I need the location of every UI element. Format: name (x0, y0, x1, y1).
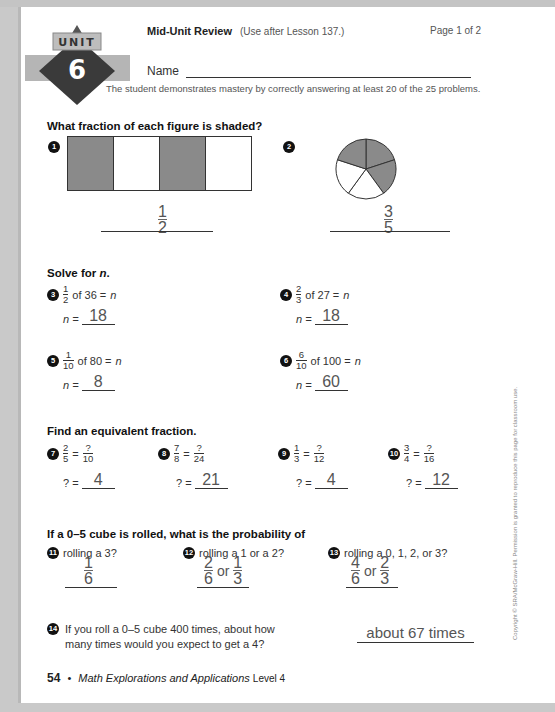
section3-heading: Find an equivalent fraction. (47, 425, 197, 437)
problem-4-answer: n = 18 (296, 308, 348, 325)
denominator: 3 (233, 571, 242, 586)
answer-label: n = (63, 379, 79, 391)
problem-11-answer-line[interactable] (65, 587, 117, 588)
problem-4-expression: 4 23 of 27 =n (280, 284, 349, 305)
answer-label: n = (63, 313, 79, 325)
fraction: 110 (63, 350, 74, 371)
section2-heading: Solve for n. (47, 267, 110, 279)
svg-text:UNIT: UNIT (58, 36, 96, 49)
answer-field[interactable]: 18 (315, 308, 348, 325)
answer-field[interactable]: 60 (315, 374, 348, 391)
title-text: Mid-Unit Review (147, 25, 232, 37)
variable: n (116, 355, 122, 367)
problem-number-5: 5 (47, 355, 59, 367)
problem-number-3: 3 (47, 289, 59, 301)
or-text: or (217, 563, 229, 579)
numerator: 1 (63, 284, 68, 294)
problem-6-expression: 6 610 of 100 =n (280, 350, 361, 371)
answer-field[interactable]: 4 (315, 472, 348, 489)
numerator: 1 (294, 443, 299, 453)
name-field[interactable] (186, 77, 471, 78)
numerator: 6 (299, 350, 304, 360)
problem-3-expression: 3 12 of 36 =n (47, 284, 116, 305)
denominator: 10 (296, 361, 307, 371)
answer-1-line[interactable] (101, 231, 213, 232)
fraction-rectangle-figure (67, 136, 252, 192)
mastery-note: The student demonstrates mastery by corr… (106, 83, 480, 94)
problem-13-answer: 46 or 23 (351, 555, 389, 586)
numerator: ? (316, 443, 321, 453)
answer-1-denominator: 2 (158, 220, 167, 235)
equals-sign: = (72, 448, 78, 460)
problem-11-question: 11 rolling a 3? (47, 547, 117, 559)
worksheet-title: Mid-Unit Review(Use after Lesson 137.) (147, 25, 344, 37)
question-line-1: If you roll a 0–5 cube 400 times, about … (65, 622, 275, 637)
problem-5-expression: 5 110 of 80 =n (47, 350, 122, 371)
section1-heading: What fraction of each figure is shaded? (47, 120, 262, 132)
problem-3-answer: n = 18 (63, 308, 115, 325)
expression-text: of 27 = (305, 289, 339, 301)
denominator: 6 (204, 571, 213, 586)
denominator: 6 (84, 571, 93, 586)
answer-field[interactable]: 12 (425, 472, 458, 489)
answer-2-numerator: 3 (384, 204, 393, 219)
variable: n (343, 289, 349, 301)
numerator: 2 (380, 555, 389, 570)
problem-10-expression: 10 34 = ?16 (388, 443, 434, 464)
problem-13-answer-line[interactable] (346, 587, 398, 588)
denominator: 3 (380, 571, 389, 586)
numerator: ? (85, 443, 90, 453)
equals-sign: = (303, 448, 309, 460)
expression-text: of 80 = (78, 355, 112, 367)
problem-8-expression: 8 78 = ?24 (158, 443, 204, 464)
answer-2-line[interactable] (330, 231, 450, 232)
expression-text: of 100 = (311, 355, 351, 367)
name-label: Name (147, 64, 179, 78)
denominator: 6 (351, 571, 360, 586)
answer-label: n = (296, 379, 312, 391)
copyright-notice: Copyright © SRA/McGraw-Hill. Permission … (512, 387, 518, 640)
problem-14-answer-field[interactable]: about 67 times (357, 624, 474, 643)
heading-suffix: . (106, 267, 109, 279)
fraction: 23 (296, 284, 301, 305)
denominator: 24 (194, 454, 205, 464)
page-number: 54 (47, 671, 60, 685)
denominator: 5 (63, 454, 68, 464)
numerator: 7 (174, 443, 179, 453)
problem-9-answer: ? = 4 (296, 472, 348, 489)
numerator: 2 (296, 284, 301, 294)
fraction: 12 (63, 284, 68, 305)
book-title: Math Explorations and Applications (78, 672, 249, 684)
variable: n (355, 355, 361, 367)
denominator: 2 (63, 295, 68, 305)
problem-number-14: 14 (47, 623, 59, 635)
problem-number-6: 6 (280, 355, 292, 367)
answer-2-denominator: 5 (384, 220, 393, 235)
problem-12-answer-line[interactable] (197, 587, 249, 588)
denominator: 8 (174, 454, 179, 464)
denominator: 3 (296, 295, 301, 305)
numerator: 2 (204, 555, 213, 570)
problem-number-7: 7 (47, 448, 59, 460)
book-level: Level 4 (253, 673, 285, 684)
answer-field[interactable]: 4 (82, 472, 115, 489)
footer-bullet: • (67, 672, 71, 684)
problem-11-answer: 16 (84, 555, 93, 586)
answer-field[interactable]: 18 (82, 308, 115, 325)
problem-12-answer: 26 or 13 (204, 555, 242, 586)
numerator: 1 (84, 555, 93, 570)
problem-number-1: 1 (48, 141, 60, 153)
fraction: 610 (296, 350, 307, 371)
problem-number-13: 13 (328, 547, 340, 559)
equals-sign: = (413, 448, 419, 460)
numerator: ? (196, 443, 201, 453)
page-indicator: Page 1 of 2 (430, 25, 481, 36)
question-line-2: many times would you expect to get a 4? (65, 637, 275, 652)
denominator: 10 (63, 361, 74, 371)
answer-label: ? = (406, 477, 422, 489)
answer-field[interactable]: 21 (195, 472, 228, 489)
equals-sign: = (183, 448, 189, 460)
denominator: 16 (424, 454, 435, 464)
answer-field[interactable]: 8 (82, 374, 115, 391)
problem-6-answer: n = 60 (296, 374, 348, 391)
